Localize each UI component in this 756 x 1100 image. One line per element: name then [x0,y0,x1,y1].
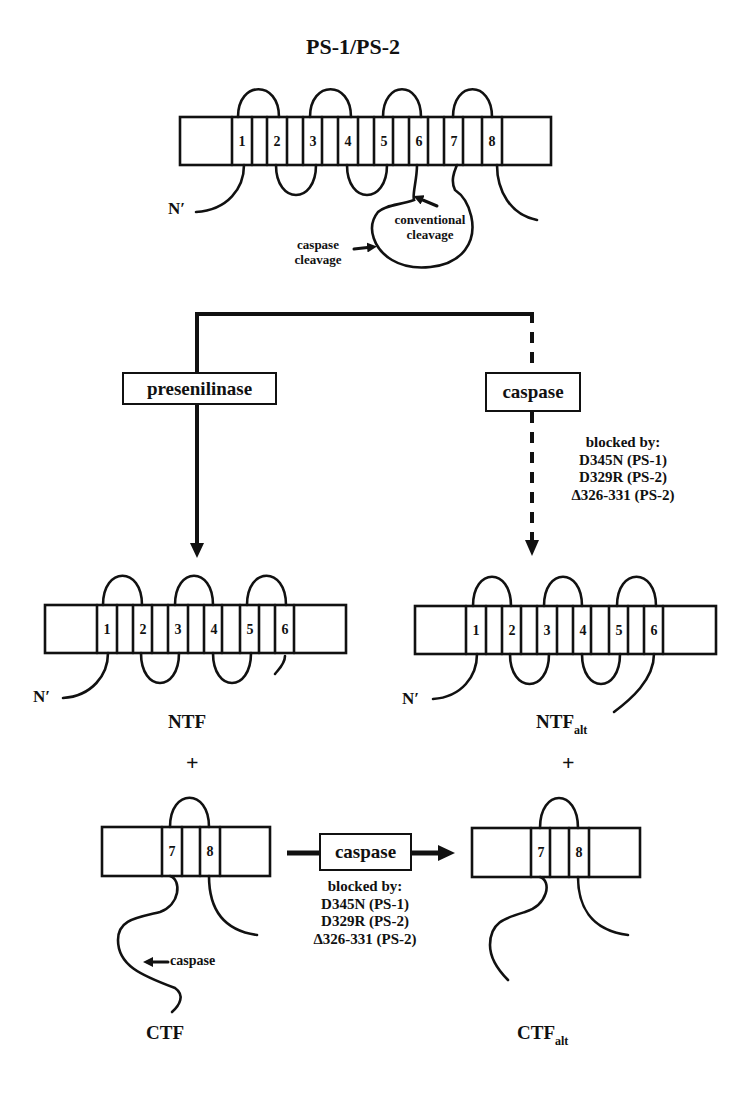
tm-segment-7: 7 [444,135,464,149]
ntf-n-terminus-label: N′ [33,688,50,705]
ntf-segment-4: 4 [204,623,224,637]
ntf-segment-6: 6 [275,623,295,637]
tm-segment-5: 5 [374,135,394,149]
ntf-segment-1: 1 [97,623,117,637]
conventional-cleavage-label: conventional cleavage [380,212,480,242]
caspase-box: caspase [485,372,581,412]
ntf-topology [45,576,346,698]
ntf-label: NTF [168,712,206,731]
ctf-caspase-site-label: caspase [170,954,215,968]
caspase-cleavage-label: caspase cleavage [283,237,353,267]
ctf-alt-label: CTFalt [517,1023,568,1047]
ctf-topology [102,798,270,1012]
caspase-cleavage-arrow [354,247,372,249]
presenilinase-box: presenilinase [122,372,277,405]
ntf-alt-topology [415,577,716,712]
ctf-segment-8: 8 [200,845,220,859]
tm-segment-3: 3 [303,135,323,149]
ntf-alt-segment-2: 2 [502,624,522,638]
ctf-alt-segment-8: 8 [569,846,589,860]
ntf-alt-segment-1: 1 [466,624,486,638]
n-terminus-label: N′ [168,200,185,217]
diagram-title: PS-1/PS-2 [306,36,400,58]
ctf-caspase-blocked-by-list: blocked by: D345N (PS-1) D329R (PS-2) Δ3… [290,878,440,948]
ntf-alt-segment-4: 4 [573,624,593,638]
ntf-segment-2: 2 [133,623,153,637]
caspase-blocked-by-list: blocked by: D345N (PS-1) D329R (PS-2) Δ3… [548,434,698,504]
tm-segment-1: 1 [232,135,252,149]
ntf-segment-5: 5 [240,623,260,637]
ctf-alt-segment-7: 7 [531,846,551,860]
ntf-alt-plus: + [562,752,575,774]
ctf-segment-7: 7 [162,845,182,859]
conventional-cleavage-arrow [418,198,437,206]
ntf-alt-n-terminus-label: N′ [402,690,419,707]
ntf-segment-3: 3 [168,623,188,637]
ntf-alt-label: NTFalt [536,712,587,736]
ctf-alt-topology [472,798,640,980]
ps-full-length-topology [180,89,551,267]
ctf-caspase-box: caspase [319,833,412,871]
tm-segment-6: 6 [409,135,429,149]
ntf-alt-segment-5: 5 [609,624,629,638]
tm-segment-8: 8 [482,135,502,149]
ntf-plus: + [186,752,199,774]
tm-segment-4: 4 [338,135,358,149]
ntf-alt-segment-3: 3 [537,624,557,638]
tm-segment-2: 2 [267,135,287,149]
ctf-label: CTF [146,1023,184,1042]
ntf-alt-segment-6: 6 [644,624,664,638]
